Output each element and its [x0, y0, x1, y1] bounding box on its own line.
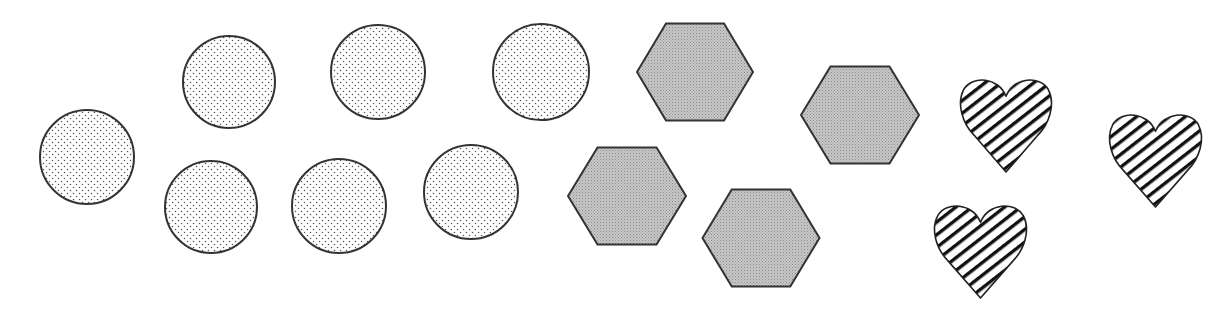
- hexagon-group: [568, 24, 919, 287]
- shapes-canvas: [0, 0, 1219, 313]
- striped-heart: [960, 80, 1051, 172]
- heart-group: [934, 80, 1201, 298]
- gray-hexagon: [801, 67, 919, 164]
- dotted-circle: [165, 161, 257, 253]
- dotted-circle: [493, 24, 589, 120]
- circle-group: [40, 24, 589, 253]
- striped-heart: [934, 206, 1026, 298]
- gray-hexagon: [568, 148, 686, 245]
- dotted-circle: [292, 159, 386, 253]
- dotted-circle: [424, 145, 518, 239]
- striped-heart: [1110, 115, 1202, 207]
- dotted-circle: [183, 36, 275, 128]
- dotted-circle: [331, 25, 425, 119]
- gray-hexagon: [703, 190, 820, 287]
- dotted-circle: [40, 110, 134, 204]
- gray-hexagon: [637, 24, 753, 121]
